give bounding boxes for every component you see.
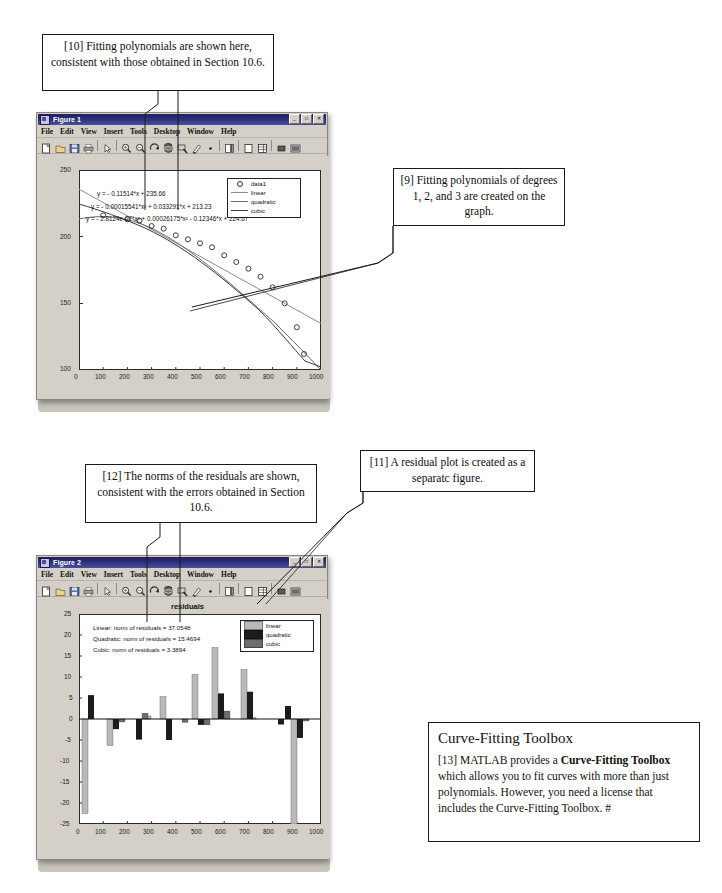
print-icon[interactable]: [82, 139, 95, 152]
figure1-equation-cubic: y = - 2.8124e-07*x³ + 0.00026175*x² - 0.…: [86, 215, 248, 222]
x-tick-300: 300: [143, 828, 154, 835]
x-tick-900: 900: [287, 373, 298, 380]
x-tick-600: 600: [215, 373, 226, 380]
figure2-title-text: Figure 2: [53, 559, 81, 566]
callout-9-text: [9] Fitting polynomials of degrees 1, 2,…: [400, 174, 557, 217]
x-tick-500: 500: [191, 373, 202, 380]
y-tick-0: 0: [69, 715, 73, 722]
y-tick-150: 150: [60, 299, 71, 306]
x-tick-100: 100: [95, 373, 106, 380]
close-button[interactable]: ✕: [313, 114, 324, 124]
x-tick-0: 0: [76, 828, 80, 835]
x-tick-800: 800: [263, 828, 274, 835]
y-tick-15: 15: [64, 652, 71, 659]
y-tick-5: 5: [69, 694, 73, 701]
open-file-icon[interactable]: [54, 139, 67, 152]
x-tick-200: 200: [119, 828, 130, 835]
legend-label: cubic: [266, 641, 280, 647]
y-tick-neg25: -25: [60, 820, 69, 827]
x-tick-800: 800: [263, 373, 274, 380]
menu-item-edit[interactable]: Edit: [60, 127, 74, 136]
x-tick-700: 700: [239, 828, 250, 835]
figure1-shadow-plate: [38, 398, 330, 412]
new-figure-icon[interactable]: [40, 139, 53, 152]
y-tick-neg15: -15: [60, 778, 69, 785]
x-tick-1000: 1000: [309, 373, 323, 380]
callout-box-10: [10] Fitting polynomials are shown here,…: [42, 34, 274, 91]
menu-item-view[interactable]: View: [81, 127, 97, 136]
callout-12-text: [12] The norms of the residuals are show…: [97, 470, 305, 513]
curve-fitting-toolbox-box: Curve-Fitting Toolbox [13] MATLAB provid…: [428, 722, 700, 842]
toolbox-body-part2: which allows you to fit curves with more…: [438, 770, 669, 814]
figure1-title-text: Figure 1: [53, 116, 81, 123]
toolbox-body-bold: Curve-Fitting Toolbox: [561, 754, 671, 766]
x-tick-0: 0: [74, 373, 78, 380]
callout-box-12: [12] The norms of the residuals are show…: [85, 464, 317, 523]
callout-box-9: [9] Fitting polynomials of degrees 1, 2,…: [393, 168, 565, 226]
x-tick-200: 200: [119, 373, 130, 380]
norm-quadratic-text: Quadratic: norm of residuals = 15.4694: [93, 635, 200, 642]
y-tick-200: 200: [60, 233, 71, 240]
x-tick-500: 500: [191, 828, 202, 835]
x-tick-1000: 1000: [309, 828, 323, 835]
toolbox-body: [13] MATLAB provides a Curve-Fitting Too…: [438, 752, 690, 816]
save-icon[interactable]: [68, 139, 81, 152]
save-icon[interactable]: [68, 582, 81, 595]
callout-10-leader: [100, 90, 300, 210]
callout-12-leader: [105, 522, 305, 632]
legend-label: quadratic: [266, 632, 291, 638]
menu-item-file[interactable]: File: [41, 127, 53, 136]
x-tick-600: 600: [215, 828, 226, 835]
y-tick-neg10: -10: [60, 757, 69, 764]
line-swatch-icon: [231, 210, 248, 211]
legend-row-cubic: cubic: [241, 639, 313, 648]
figure2-shadow-plate: [38, 858, 330, 872]
print-icon[interactable]: [82, 582, 95, 595]
y-tick-250: 250: [60, 166, 71, 173]
x-tick-700: 700: [239, 373, 250, 380]
menu-item-view[interactable]: View: [81, 570, 97, 579]
toolbox-heading: Curve-Fitting Toolbox: [438, 730, 690, 747]
y-tick-10: 10: [64, 673, 71, 680]
callout-10-text: [10] Fitting polynomials are shown here,…: [51, 40, 265, 68]
x-tick-300: 300: [143, 373, 154, 380]
x-tick-400: 400: [167, 828, 178, 835]
callout-9-leader: [188, 225, 403, 320]
y-tick-neg20: -20: [60, 799, 69, 806]
maximize-button[interactable]: □: [301, 114, 312, 124]
x-tick-400: 400: [167, 373, 178, 380]
menu-item-edit[interactable]: Edit: [60, 570, 74, 579]
y-tick-100: 100: [60, 365, 71, 372]
matlab-figure-icon: [40, 558, 50, 568]
bar-swatch-cubic-icon: [244, 639, 263, 648]
y-tick-25: 25: [64, 610, 71, 617]
x-tick-900: 900: [287, 828, 298, 835]
y-tick-neg5: -5: [65, 736, 71, 743]
toolbar-separator: [96, 583, 100, 594]
new-figure-icon[interactable]: [40, 582, 53, 595]
open-file-icon[interactable]: [54, 582, 67, 595]
toolbox-body-part1: [13] MATLAB provides a: [438, 754, 561, 766]
norm-cubic-text: Cubic: norm of residuals = 3.3894: [93, 646, 186, 653]
matlab-figure-icon: [40, 115, 50, 125]
callout-11-text: [11] A residual plot is created as a sep…: [370, 456, 526, 484]
menu-item-file[interactable]: File: [41, 570, 53, 579]
figure2-plot-canvas: residuals 25 20 15 10 5 0 -5 -10 -15 -20…: [43, 599, 329, 859]
callout-box-11: [11] A residual plot is created as a sep…: [360, 450, 535, 492]
y-tick-20: 20: [64, 631, 71, 638]
x-tick-100: 100: [95, 828, 106, 835]
